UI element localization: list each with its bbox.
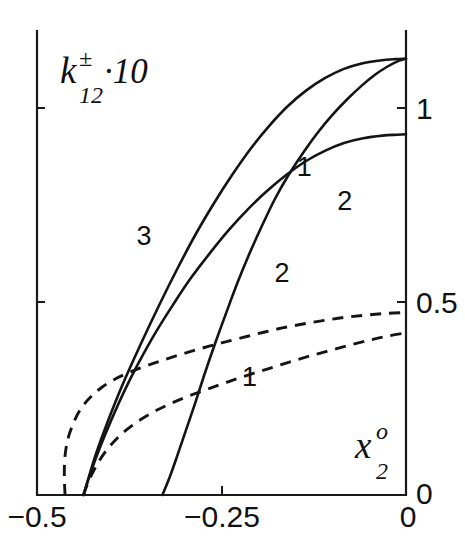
curve-label-solid-3: 3: [136, 221, 151, 251]
y-axis-title-subscript: 12: [79, 82, 103, 108]
y-axis-title-base: k: [60, 50, 77, 91]
x-axis-title-subscript: 2: [376, 458, 388, 484]
x-tick-label-1: −0.25: [184, 500, 260, 533]
y-axis-title-superscript: ±: [79, 45, 92, 71]
curve-label-dashed-2: 2: [274, 258, 289, 288]
y-axis-title-suffix: ·10: [104, 52, 148, 91]
x-axis-title-superscript: o: [376, 418, 388, 444]
curve-label-dashed-1: 1: [242, 362, 257, 392]
curve-label-solid-1: 1: [297, 152, 312, 182]
figure-container: −0.5 −0.25 0 0 0.5 1 k ± 12 ·10 x o 2 3 …: [0, 0, 465, 556]
chart-svg: −0.5 −0.25 0 0 0.5 1 k ± 12 ·10 x o 2 3 …: [0, 0, 465, 556]
curve-label-solid-2: 2: [337, 186, 352, 216]
y-tick-label-05: 0.5: [416, 286, 458, 319]
x-axis-title-base: x: [354, 425, 372, 466]
y-tick-label-1: 1: [416, 92, 433, 125]
x-tick-label-0: −0.5: [7, 500, 66, 533]
x-tick-label-2: 0: [400, 500, 417, 533]
y-tick-label-0: 0: [416, 477, 433, 510]
